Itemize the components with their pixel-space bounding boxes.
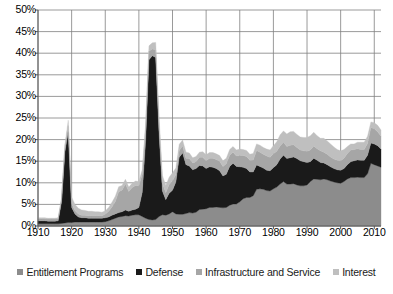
y-axis-tick-label: 25% [2, 112, 36, 122]
y-axis-tick-label: 50% [2, 4, 36, 14]
legend-label-defense: Defense [145, 266, 183, 278]
y-axis-tick-label: 45% [2, 26, 36, 36]
y-axis-tick-label: 20% [2, 134, 36, 144]
legend-swatch-defense [136, 269, 142, 275]
stacked-area-chart: 0%5%10%15%20%25%30%35%40%45%50% 19101920… [0, 0, 393, 294]
y-axis-tick-label: 10% [2, 177, 36, 187]
legend-swatch-interest [333, 269, 339, 275]
legend-item-defense[interactable]: Defense [136, 266, 183, 278]
y-axis-tick-label: 5% [2, 198, 36, 208]
legend-label-interest: Interest [342, 266, 375, 278]
x-axis-tick-label: 2010 [354, 226, 393, 238]
y-axis-tick-label: 30% [2, 90, 36, 100]
y-axis: 0%5%10%15%20%25%30%35%40%45%50% [0, 0, 36, 250]
legend-swatch-entitlement-programs [17, 269, 23, 275]
chart-legend: Entitlement Programs Defense Infrastruct… [0, 262, 393, 282]
legend-label-infrastructure-and-service: Infrastructure and Service [205, 266, 320, 278]
legend-swatch-infrastructure-and-service [196, 269, 202, 275]
y-axis-tick-label: 15% [2, 155, 36, 165]
legend-item-infrastructure-and-service[interactable]: Infrastructure and Service [196, 266, 320, 278]
y-axis-tick-label: 40% [2, 47, 36, 57]
plot-area [0, 0, 393, 250]
legend-label-entitlement-programs: Entitlement Programs [26, 266, 123, 278]
y-axis-tick-label: 35% [2, 69, 36, 79]
legend-item-interest[interactable]: Interest [333, 266, 375, 278]
x-axis: 1910192019301940195019601970198019902000… [0, 226, 393, 250]
chart-canvas [0, 0, 393, 250]
legend-item-entitlement-programs[interactable]: Entitlement Programs [17, 266, 123, 278]
